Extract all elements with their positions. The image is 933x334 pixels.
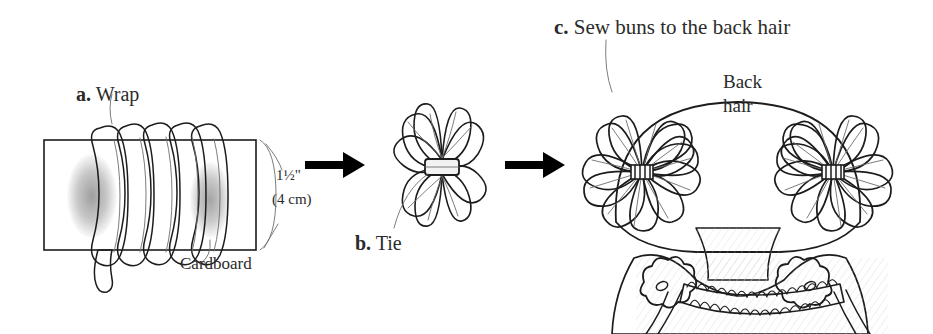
step-b-caption: b. Tie: [355, 233, 402, 254]
arrow-a-to-b-icon: [305, 150, 367, 180]
cardboard-label: Cardboard: [180, 255, 252, 273]
measurement-imperial: 1½": [276, 168, 301, 184]
panel-a-wrap-illustration: [28, 100, 298, 290]
leader-line-sew: [606, 40, 612, 92]
back-hair-label-line2: hair: [723, 96, 762, 116]
center-tie-band: [425, 159, 459, 175]
step-b-label: Tie: [376, 232, 402, 254]
illustration-figure: a. Wrap: [0, 0, 933, 334]
bun-left: [582, 116, 700, 231]
cardboard-piece: [44, 140, 256, 250]
step-c-marker: c.: [554, 15, 569, 39]
step-c-caption: c. Sew buns to the back hair: [554, 16, 790, 38]
back-hair-label: Back hair: [723, 72, 762, 116]
step-b-marker: b.: [355, 232, 371, 254]
step-c-label: Sew buns to the back hair: [574, 15, 790, 39]
back-hair-label-line1: Back: [723, 72, 762, 92]
panel-b-tie-illustration: [372, 98, 512, 243]
measurement-metric: (4 cm): [272, 192, 312, 208]
doll-dress: [612, 255, 888, 334]
